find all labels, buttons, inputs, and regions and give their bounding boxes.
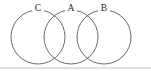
set-label-a: A (68, 3, 75, 13)
circle-b (77, 10, 131, 64)
circle-a (44, 10, 98, 64)
set-label-c: C (35, 3, 41, 13)
circle-c (11, 10, 65, 64)
set-label-b: B (101, 3, 107, 13)
diagram-canvas: C A B (0, 0, 151, 71)
venn-diagram: C A B (0, 0, 151, 71)
